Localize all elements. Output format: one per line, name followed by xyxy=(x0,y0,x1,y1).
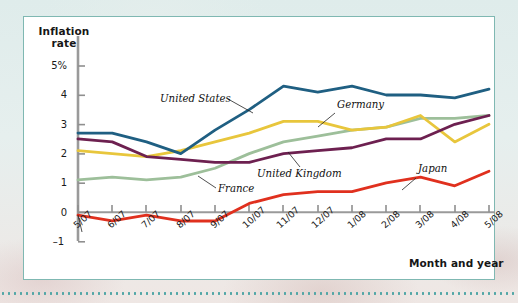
series-label-france: France xyxy=(218,183,254,194)
leader-united-kingdom xyxy=(288,152,300,167)
dotted-rule-decoration xyxy=(0,292,518,295)
y-axis-title-line1: Inflation xyxy=(39,25,90,37)
y-axis-title: Inflation rate xyxy=(33,26,95,49)
x-axis-title: Month and year xyxy=(409,258,504,270)
series-label-japan: Japan xyxy=(418,163,447,174)
series-label-united-kingdom: United Kingdom xyxy=(257,168,342,179)
y-tick-label-3: 3 xyxy=(41,119,67,130)
y-tick-label-neg1: –1 xyxy=(38,236,64,247)
y-axis-title-line2: rate xyxy=(52,37,77,49)
series-label-united-states: United States xyxy=(160,93,231,104)
y-tick-label-4: 4 xyxy=(41,89,67,100)
series-paths xyxy=(78,86,489,221)
y-tick-label-1: 1 xyxy=(41,177,67,188)
y-tick-label-5: 5% xyxy=(41,60,67,71)
y-tick-label-0: 0 xyxy=(41,207,67,218)
leader-united-states xyxy=(228,99,253,113)
leader-france xyxy=(198,176,216,188)
y-tick-label-2: 2 xyxy=(41,148,67,159)
series-label-germany: Germany xyxy=(337,99,384,110)
